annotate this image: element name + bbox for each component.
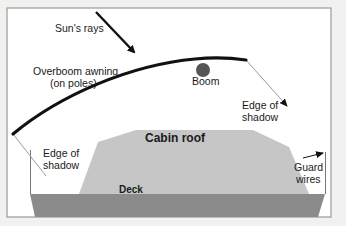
awning-label-line2: (on poles) bbox=[50, 77, 97, 89]
boom-label: Boom bbox=[192, 75, 220, 87]
shadow-left-label-line2: shadow bbox=[43, 159, 80, 171]
shadow-right-label-line2: shadow bbox=[242, 111, 279, 123]
guard-wires-label-line1: Guard bbox=[294, 161, 323, 173]
shadow-right-label-line1: Edge of bbox=[242, 99, 278, 111]
deck-label: Deck bbox=[119, 184, 143, 195]
cabin-roof-label: Cabin roof bbox=[145, 131, 206, 145]
deck-shape bbox=[30, 194, 325, 217]
awning-label-line1: Overboom awning bbox=[33, 65, 118, 77]
sun-rays-label: Sun's rays bbox=[55, 22, 104, 34]
shadow-left-label-line1: Edge of bbox=[43, 147, 79, 159]
awning-diagram: Sun's rays Overboom awning (on poles) Bo… bbox=[0, 0, 346, 226]
guard-wires-label-line2: wires bbox=[295, 173, 321, 185]
